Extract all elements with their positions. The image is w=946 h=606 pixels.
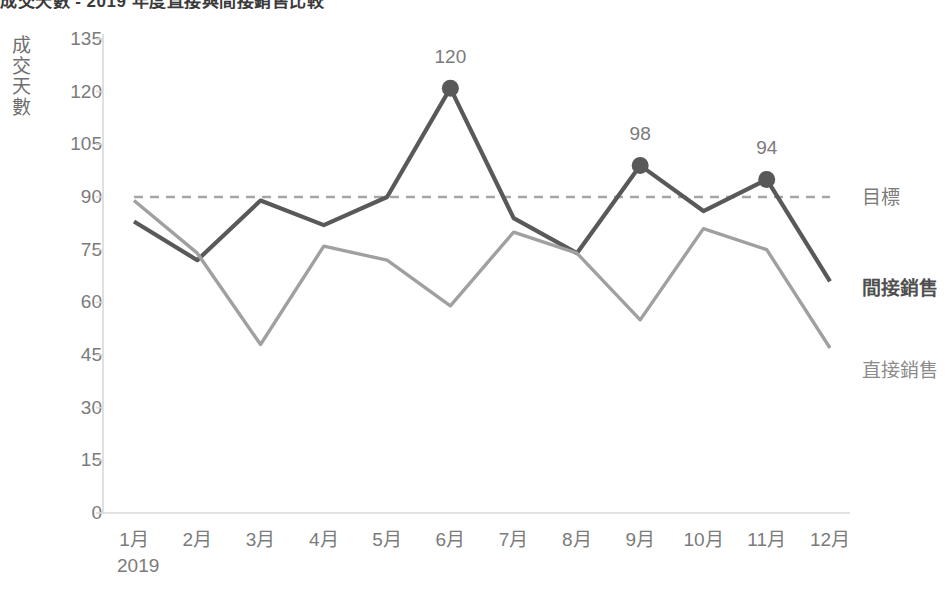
x-tick-label: 2月 — [182, 524, 212, 551]
x-tick-label: 4月 — [309, 524, 339, 551]
series-label-indirect: 間接銷售 — [862, 273, 938, 300]
x-tick-label: 12月 — [810, 524, 850, 551]
series-label-direct: 直接銷售 — [862, 355, 938, 382]
x-tick-label: 10月 — [683, 524, 723, 551]
x-tick-label: 6月 — [436, 524, 466, 551]
x-tick-label: 5月 — [372, 524, 402, 551]
x-tick-label: 11月 — [747, 524, 786, 551]
data-point-marker — [758, 171, 775, 188]
x-tick-label: 8月 — [562, 524, 592, 551]
data-point-marker — [442, 80, 459, 97]
series-label-target: 目標 — [862, 182, 900, 209]
data-point-label: 120 — [435, 46, 467, 68]
x-tick-label: 9月 — [625, 524, 655, 551]
x-tick-label: 1月 — [119, 524, 149, 551]
x-tick-label: 7月 — [499, 524, 529, 551]
x-axis-year: 2019 — [117, 555, 159, 577]
series-line-間接銷售 — [134, 88, 830, 281]
x-tick-label: 3月 — [246, 524, 276, 551]
data-point-marker — [632, 157, 649, 174]
data-point-label: 98 — [630, 123, 651, 145]
chart-canvas: 成交天數 - 2019 年度直接與間接銷售比較 成交天數 13512010590… — [0, 0, 946, 606]
data-point-label: 94 — [756, 137, 777, 159]
plot-area — [0, 0, 946, 606]
